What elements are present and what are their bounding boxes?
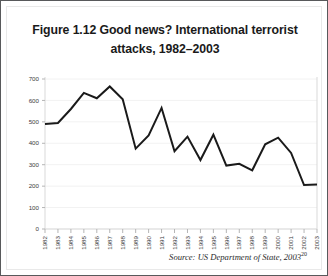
x-axis-tick-label: 2002: [300, 235, 307, 249]
x-axis-tick-label: 1993: [184, 235, 191, 249]
x-axis-tick-label: 1987: [106, 235, 113, 249]
x-axis-tick-label: 1985: [80, 235, 87, 249]
y-axis-tick-label: 300: [29, 161, 40, 168]
x-axis-tick-label: 2003: [313, 235, 320, 249]
x-axis-tick-label: 1996: [223, 235, 230, 249]
y-axis-tick-label: 500: [29, 118, 40, 125]
y-axis: 0100200300400500600700: [29, 75, 45, 232]
y-axis-tick-label: 600: [29, 97, 40, 104]
figure-title: Figure 1.12 Good news? International ter…: [21, 21, 309, 59]
source-text: Source: US Department of State, 2003: [169, 252, 301, 262]
chart-svg: 0100200300400500600700 19821983198419851…: [7, 67, 323, 257]
x-axis-tick-label: 1997: [235, 235, 242, 249]
y-axis-tick-label: 0: [36, 225, 40, 232]
x-axis-tick-label: 1991: [158, 235, 165, 249]
source-note: Source: US Department of State, 200320: [169, 251, 307, 262]
x-axis-tick-label: 1998: [248, 235, 255, 249]
x-axis-tick-label: 1988: [119, 235, 126, 249]
x-axis-tick-label: 2001: [287, 235, 294, 249]
x-axis: 1982198319841985198619871988198919901991…: [41, 77, 320, 250]
x-axis-tick-label: 1992: [171, 235, 178, 249]
x-axis-tick-label: 1983: [54, 235, 61, 249]
x-axis-tick-label: 1994: [197, 235, 204, 249]
figure-card: Figure 1.12 Good news? International ter…: [0, 0, 328, 276]
y-axis-tick-label: 200: [29, 182, 40, 189]
y-axis-tick-label: 400: [29, 139, 40, 146]
gridlines: [45, 79, 317, 229]
source-superscript: 20: [301, 251, 307, 257]
x-axis-tick-label: 1989: [132, 235, 139, 249]
x-axis-tick-label: 1986: [93, 235, 100, 249]
x-axis-tick-label: 1982: [41, 235, 48, 249]
x-axis-tick-label: 1999: [261, 235, 268, 249]
series-line: [45, 87, 317, 186]
y-axis-tick-label: 700: [29, 75, 40, 82]
x-axis-tick-label: 2000: [274, 235, 281, 249]
line-chart: 0100200300400500600700 19821983198419851…: [7, 67, 323, 257]
x-axis-tick-label: 1984: [67, 235, 74, 249]
x-axis-tick-label: 1995: [210, 235, 217, 249]
figure-panel: Figure 1.12 Good news? International ter…: [6, 6, 322, 270]
figure-title-line-2: attacks, 1982–2003: [21, 40, 309, 59]
x-axis-tick-label: 1990: [145, 235, 152, 249]
data-series: [45, 87, 317, 186]
figure-title-line-1: Figure 1.12 Good news? International ter…: [21, 21, 309, 40]
y-axis-tick-label: 100: [29, 204, 40, 211]
